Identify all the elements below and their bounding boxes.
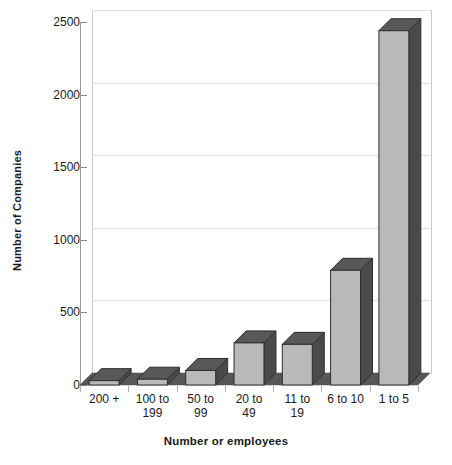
- x-tick-label: 1 to 5: [370, 392, 418, 406]
- x-tick-label: 6 to 10: [321, 392, 369, 406]
- x-tick-label: 100 to199: [128, 392, 176, 420]
- x-tick-label-line2: 49: [225, 406, 273, 420]
- x-tick-label-line1: 11 to: [273, 392, 321, 406]
- x-axis-title: Number or employees: [0, 435, 452, 447]
- x-tick-label-line1: 6 to 10: [321, 392, 369, 406]
- x-tick-label-line1: 20 to: [225, 392, 273, 406]
- bar-chart: Number of Companies 05001000150020002500…: [0, 0, 452, 465]
- x-tick-label: 50 to99: [177, 392, 225, 420]
- x-axis-labels: 200 +100 to19950 to9920 to4911 to196 to …: [0, 392, 452, 434]
- x-tick-label-line1: 1 to 5: [370, 392, 418, 406]
- x-tick-label: 11 to19: [273, 392, 321, 420]
- x-tick-label-line2: 99: [177, 406, 225, 420]
- x-tick-label: 200 +: [80, 392, 128, 406]
- x-tick-label-line1: 100 to: [128, 392, 176, 406]
- x-tick-label-line2: 19: [273, 406, 321, 420]
- x-tick-label-line1: 50 to: [177, 392, 225, 406]
- x-tick-label-line1: 200 +: [80, 392, 128, 406]
- x-tick-label: 20 to49: [225, 392, 273, 420]
- x-tick-label-line2: 199: [128, 406, 176, 420]
